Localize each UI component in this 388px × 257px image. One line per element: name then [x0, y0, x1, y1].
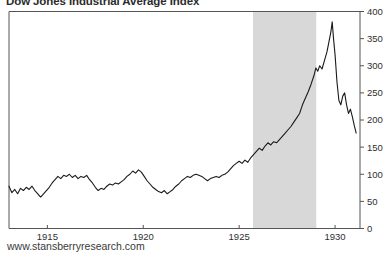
- svg-text:250: 250: [367, 87, 383, 98]
- source-url-label: www.stansberryresearch.com: [7, 240, 145, 252]
- shaded-recession-band: [253, 12, 316, 229]
- svg-text:0: 0: [367, 223, 372, 234]
- y-axis-ticks: 050100150200250300350400: [360, 6, 383, 234]
- svg-text:50: 50: [367, 196, 378, 207]
- svg-text:300: 300: [367, 60, 383, 71]
- svg-text:100: 100: [367, 169, 383, 180]
- line-chart-plot: 050100150200250300350400 191519201925193…: [0, 0, 388, 257]
- svg-text:400: 400: [367, 6, 383, 17]
- svg-text:1930: 1930: [324, 231, 345, 242]
- chart-container: Dow Jones Industrial Average Index 05010…: [0, 0, 388, 257]
- svg-text:1925: 1925: [229, 231, 250, 242]
- svg-text:200: 200: [367, 114, 383, 125]
- svg-text:350: 350: [367, 33, 383, 44]
- svg-text:150: 150: [367, 142, 383, 153]
